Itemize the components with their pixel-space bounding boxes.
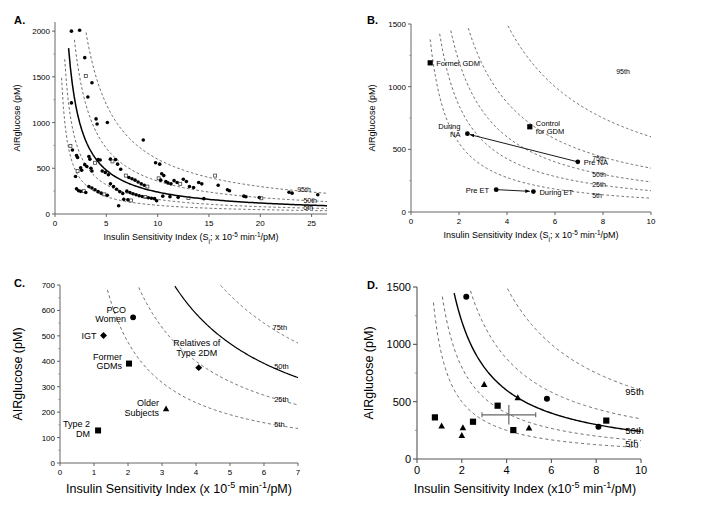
percentile-curve-5th xyxy=(433,303,641,448)
data-point xyxy=(595,424,601,430)
percentile-curve-95th xyxy=(508,26,651,137)
percentile-curve-25th xyxy=(65,59,327,208)
y-tick-label: 0 xyxy=(51,459,56,468)
percentile-curve-75th xyxy=(468,28,651,168)
data-point xyxy=(84,191,88,195)
data-point xyxy=(179,182,182,185)
percentile-label-5th: 5th xyxy=(592,192,602,199)
x-tick-label: 4 xyxy=(505,217,510,226)
data-point xyxy=(316,193,320,197)
x-axis-title: Insulin Sensitivity Index (x10-5 min-1/p… xyxy=(414,480,636,496)
data-point xyxy=(146,185,149,188)
x-tick-label: 5 xyxy=(228,468,233,477)
x-tick-label: 10 xyxy=(153,219,162,228)
percentile-label-50th: 50th xyxy=(625,425,644,436)
data-point xyxy=(70,29,74,33)
data-point xyxy=(128,191,132,195)
data-point xyxy=(84,74,87,77)
data-point xyxy=(432,414,438,420)
percentile-curve-75th xyxy=(74,40,327,202)
y-tick-label: 100 xyxy=(42,434,56,443)
percentile-label-50th: 50th xyxy=(274,362,289,371)
data-point xyxy=(141,138,145,142)
data-point-control-for-gdm xyxy=(527,124,532,129)
percentile-curve-75th xyxy=(470,291,641,419)
x-tick-label: 15 xyxy=(205,219,214,228)
x-tick-label: 20 xyxy=(256,219,265,228)
percentile-curve-95th xyxy=(507,289,641,391)
label-control-for-gdm-2: for GDM xyxy=(536,127,564,136)
percentile-curve-50th xyxy=(454,293,641,431)
data-point xyxy=(94,117,98,121)
panel-a-letter: A. xyxy=(14,14,25,26)
data-point xyxy=(125,189,129,193)
data-point xyxy=(106,121,110,125)
y-tick-label: 1500 xyxy=(388,20,406,29)
label-former-gdms-2: GDMs xyxy=(97,361,123,371)
four-panel-figure: A. 0500100015002000051015202595th50th5th… xyxy=(0,0,705,509)
percentile-label-5th: 5th xyxy=(274,420,284,429)
data-point xyxy=(158,162,162,166)
data-point xyxy=(510,427,516,433)
label-relatives-1: Relatives of xyxy=(173,338,221,348)
data-point xyxy=(83,56,87,60)
x-tick-label: 1 xyxy=(92,468,97,477)
data-point xyxy=(216,183,220,187)
y-tick-label: 500 xyxy=(393,145,407,154)
x-tick-label: 6 xyxy=(548,464,554,476)
x-tick-label: 3 xyxy=(160,468,165,477)
y-axis-title: AIRglucose (pM) xyxy=(12,84,22,151)
data-point xyxy=(107,173,111,177)
data-point xyxy=(169,182,173,186)
y-tick-label: 500 xyxy=(37,164,51,173)
panel-d-letter: D. xyxy=(367,279,378,291)
x-axis-title: Insulin Sensitivity Index (x 10-5 min-1/… xyxy=(66,480,292,496)
data-point xyxy=(118,190,122,194)
y-tick-label: 1500 xyxy=(387,281,411,293)
data-point xyxy=(133,178,137,182)
data-point xyxy=(257,196,261,200)
data-point xyxy=(168,195,172,199)
y-tick-label: 1000 xyxy=(387,338,411,350)
y-tick-label: 200 xyxy=(42,408,56,417)
x-tick-label: 4 xyxy=(194,468,199,477)
data-point xyxy=(459,432,466,438)
label-type2dm-1: Type 2 xyxy=(63,419,90,429)
data-point xyxy=(100,169,104,173)
data-point xyxy=(202,197,206,201)
transition-arrow xyxy=(470,135,578,162)
data-point xyxy=(86,95,90,99)
data-point xyxy=(290,191,294,195)
label-older-2: Subjects xyxy=(125,408,160,418)
data-point xyxy=(114,158,118,162)
x-tick-label: 0 xyxy=(58,468,63,477)
data-point xyxy=(129,199,132,202)
data-point xyxy=(134,193,138,197)
panel-c-plot: C. 010020030040050060070001234567PCOWome… xyxy=(0,255,353,509)
x-tick-label: 2 xyxy=(126,468,131,477)
y-tick-label: 400 xyxy=(42,357,56,366)
panel-b-plot: B. 0500100015000246810Former GDMControlf… xyxy=(353,0,705,255)
y-tick-label: 300 xyxy=(42,383,56,392)
percentile-label-95th: 95th xyxy=(297,186,311,193)
data-point xyxy=(460,424,467,430)
data-point xyxy=(70,101,74,105)
data-point xyxy=(71,148,75,152)
data-point xyxy=(90,81,94,85)
data-point xyxy=(103,171,107,175)
x-tick-label: 25 xyxy=(307,219,316,228)
percentile-label-75th: 75th xyxy=(273,323,288,332)
data-point-pre-na xyxy=(575,159,580,164)
label-during-et: During ET xyxy=(539,188,573,197)
data-point xyxy=(131,192,135,196)
data-point xyxy=(214,174,217,177)
data-point xyxy=(162,174,166,178)
y-axis-title: AIRglucose (pM) xyxy=(11,327,25,420)
data-point xyxy=(228,189,232,193)
data-point xyxy=(544,396,550,402)
panel-d: D. 050010001500024681095th50th5thAIRgluc… xyxy=(353,255,705,509)
data-point xyxy=(182,177,186,181)
data-point xyxy=(124,174,127,177)
x-tick-label: 0 xyxy=(53,219,58,228)
data-point xyxy=(192,186,196,190)
